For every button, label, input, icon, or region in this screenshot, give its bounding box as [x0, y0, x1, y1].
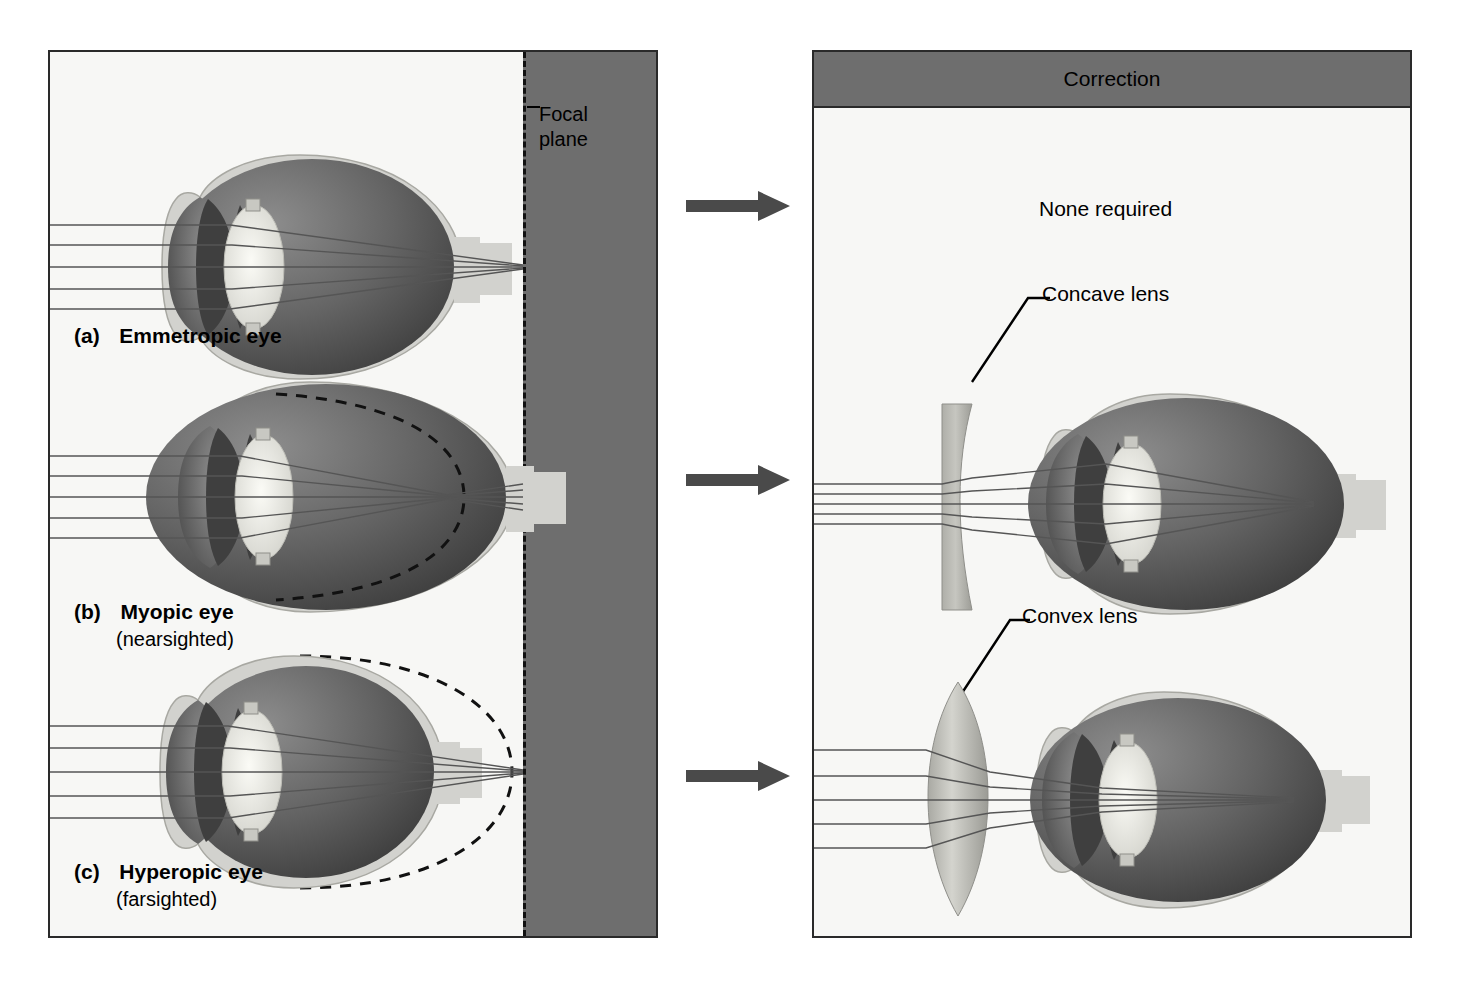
- row-b-title-text: Myopic eye: [121, 600, 234, 623]
- convex-lens-label: Convex lens: [1022, 604, 1138, 628]
- eye-conditions-panel: Focal plane: [48, 50, 658, 938]
- flow-arrow-b: [686, 464, 792, 496]
- flow-arrow-a: [686, 190, 792, 222]
- none-required-label: None required: [1039, 197, 1172, 221]
- focal-plane-label: Focal plane: [539, 102, 588, 152]
- row-b-marker: (b): [74, 600, 101, 623]
- row-c-subtitle: (farsighted): [116, 888, 217, 911]
- concave-correction-diagram: [814, 352, 1410, 622]
- correction-header: Correction: [814, 52, 1410, 108]
- row-a-title-text: Emmetropic eye: [119, 324, 281, 347]
- row-b-title: (b) Myopic eye: [74, 600, 234, 624]
- myopic-eye-diagram: [60, 372, 656, 622]
- row-c-marker: (c): [74, 860, 100, 883]
- row-c-title-text: Hyperopic eye: [119, 860, 263, 883]
- row-c-title: (c) Hyperopic eye: [74, 860, 263, 884]
- convex-correction-diagram: [814, 648, 1410, 938]
- row-a-title: (a) Emmetropic eye: [74, 324, 282, 348]
- focal-plane-label-line1: Focal: [539, 102, 588, 127]
- correction-panel: Correction None required Concave lens: [812, 50, 1412, 938]
- row-a-marker: (a): [74, 324, 100, 347]
- correction-header-label: Correction: [1064, 67, 1161, 91]
- flow-arrow-c: [686, 760, 792, 792]
- concave-lens-label: Concave lens: [1042, 282, 1169, 306]
- emmetropic-eye-diagram: [50, 147, 656, 387]
